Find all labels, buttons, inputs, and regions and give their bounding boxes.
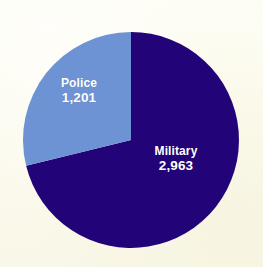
pie-label-police-name: Police xyxy=(29,76,129,90)
pie-chart-svg xyxy=(0,0,263,267)
pie-label-police: Police 1,201 xyxy=(29,76,129,106)
pie-label-police-value: 1,201 xyxy=(29,90,129,106)
pie-label-military-value: 2,963 xyxy=(126,158,226,174)
pie-label-military: Military 2,963 xyxy=(126,144,226,174)
pie-chart-figure: Police 1,201 Military 2,963 xyxy=(0,0,263,267)
pie-label-military-name: Military xyxy=(126,144,226,158)
